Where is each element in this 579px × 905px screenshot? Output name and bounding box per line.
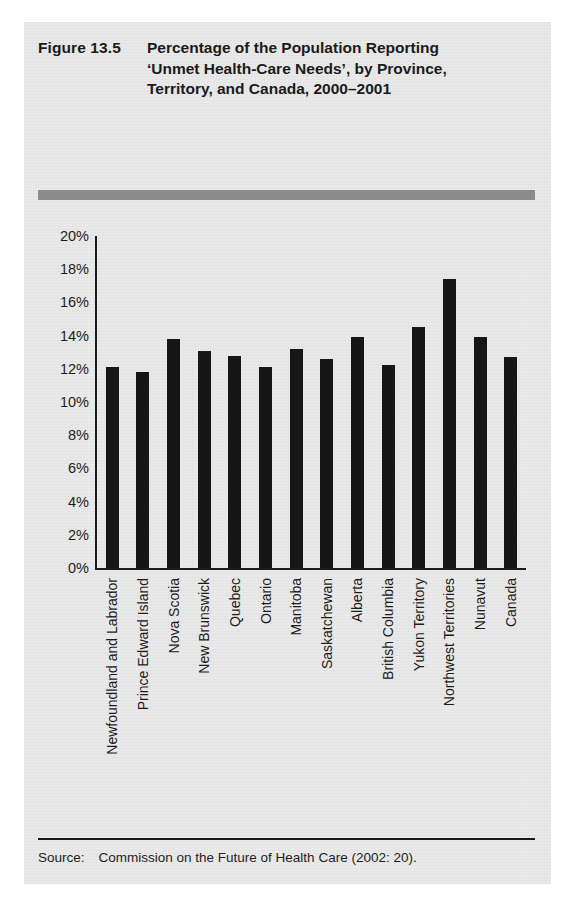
y-axis-labels: 20%18%16%14%12%10%8%6%4%2%0% bbox=[38, 236, 89, 568]
bar-series bbox=[97, 236, 526, 568]
scanned-page: Figure 13.5 Percentage of the Population… bbox=[0, 0, 579, 905]
figure-caption: Figure 13.5 Percentage of the Population… bbox=[38, 38, 541, 100]
source-label: Source: bbox=[38, 850, 85, 865]
bar-slot bbox=[342, 236, 373, 568]
x-axis-label-slot: Newfoundland and Labrador bbox=[97, 574, 128, 814]
y-axis-tick: 2% bbox=[68, 527, 89, 543]
x-axis-tick-label: Manitoba bbox=[289, 578, 303, 636]
x-axis-tick-label: Canada bbox=[504, 578, 518, 627]
y-axis-tick: 6% bbox=[68, 460, 89, 476]
x-axis-line bbox=[95, 568, 526, 570]
figure-title: Percentage of the Population Reporting ‘… bbox=[147, 38, 447, 100]
source-rule bbox=[38, 838, 535, 840]
figure-panel: Figure 13.5 Percentage of the Population… bbox=[24, 22, 551, 884]
figure-number: Figure 13.5 bbox=[38, 38, 121, 59]
bar-slot bbox=[373, 236, 404, 568]
y-axis-tick: 14% bbox=[60, 328, 89, 344]
y-axis-tick: 10% bbox=[60, 394, 89, 410]
x-axis-tick-label: Yukon Territory bbox=[412, 578, 426, 671]
bar-chart: 20%18%16%14%12%10%8%6%4%2%0% Newfoundlan… bbox=[38, 218, 538, 818]
bar bbox=[382, 365, 395, 568]
x-axis-tick-label: Northwest Territories bbox=[442, 578, 456, 706]
bar bbox=[320, 359, 333, 568]
x-axis-label-slot: Manitoba bbox=[281, 574, 312, 814]
x-axis-tick-label: Nunavut bbox=[473, 578, 487, 630]
source-note: Source: Commission on the Future of Heal… bbox=[38, 850, 417, 865]
bar-slot bbox=[250, 236, 281, 568]
y-axis-tick: 12% bbox=[60, 361, 89, 377]
x-axis-label-slot: British Columbia bbox=[373, 574, 404, 814]
x-axis-tick-label: Prince Edward Island bbox=[136, 578, 150, 710]
x-axis-label-slot: Saskatchewan bbox=[312, 574, 343, 814]
bar bbox=[167, 339, 180, 568]
bar-slot bbox=[403, 236, 434, 568]
x-axis-label-slot: Alberta bbox=[342, 574, 373, 814]
x-axis-label-slot: Nova Scotia bbox=[158, 574, 189, 814]
x-axis-labels: Newfoundland and LabradorPrince Edward I… bbox=[97, 574, 526, 814]
bar-slot bbox=[434, 236, 465, 568]
x-axis-tick-label: British Columbia bbox=[381, 578, 395, 680]
x-axis-label-slot: Prince Edward Island bbox=[128, 574, 159, 814]
y-axis-tick: 16% bbox=[60, 294, 89, 310]
bar bbox=[136, 372, 149, 568]
x-axis-label-slot: Quebec bbox=[220, 574, 251, 814]
bar-slot bbox=[220, 236, 251, 568]
y-axis-tick: 8% bbox=[68, 427, 89, 443]
x-axis-label-slot: New Brunswick bbox=[189, 574, 220, 814]
bar bbox=[290, 349, 303, 568]
y-axis-tick: 0% bbox=[68, 560, 89, 576]
bar bbox=[474, 337, 487, 568]
bar-slot bbox=[97, 236, 128, 568]
source-text: Commission on the Future of Health Care … bbox=[99, 850, 417, 865]
bar-slot bbox=[495, 236, 526, 568]
x-axis-label-slot: Yukon Territory bbox=[403, 574, 434, 814]
y-axis-tick: 18% bbox=[60, 261, 89, 277]
bar bbox=[504, 357, 517, 568]
caption-rule-bar bbox=[38, 190, 535, 200]
bar bbox=[198, 351, 211, 568]
x-axis-tick-label: Saskatchewan bbox=[320, 578, 334, 669]
bar-slot bbox=[128, 236, 159, 568]
x-axis-tick-label: Alberta bbox=[350, 578, 364, 622]
x-axis-tick-label: Nova Scotia bbox=[167, 578, 181, 653]
bar bbox=[412, 327, 425, 568]
bar-slot bbox=[158, 236, 189, 568]
bar bbox=[259, 367, 272, 568]
x-axis-label-slot: Nunavut bbox=[465, 574, 496, 814]
bar-slot bbox=[312, 236, 343, 568]
y-axis-tick: 20% bbox=[60, 228, 89, 244]
x-axis-tick-label: Quebec bbox=[228, 578, 242, 627]
bar-slot bbox=[189, 236, 220, 568]
x-axis-tick-label: Newfoundland and Labrador bbox=[105, 578, 119, 755]
bar bbox=[228, 356, 241, 568]
bar bbox=[443, 279, 456, 568]
x-axis-label-slot: Northwest Territories bbox=[434, 574, 465, 814]
x-axis-label-slot: Ontario bbox=[250, 574, 281, 814]
y-axis-tick: 4% bbox=[68, 494, 89, 510]
x-axis-label-slot: Canada bbox=[495, 574, 526, 814]
bar bbox=[351, 337, 364, 568]
bar bbox=[106, 367, 119, 568]
x-axis-tick-label: New Brunswick bbox=[197, 578, 211, 674]
bar-slot bbox=[465, 236, 496, 568]
x-axis-tick-label: Ontario bbox=[259, 578, 273, 624]
bar-slot bbox=[281, 236, 312, 568]
